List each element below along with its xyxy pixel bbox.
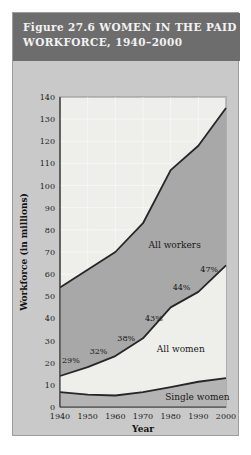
x-tick-label: 1940: [50, 412, 70, 421]
percent-annotation: 38%: [117, 334, 135, 343]
y-axis-title: Workforce (in millions): [19, 193, 29, 312]
x-tick-label: 1950: [77, 412, 97, 421]
x-axis-title: Year: [131, 424, 154, 434]
x-tick-label: 2000: [216, 412, 236, 421]
percent-annotation: 32%: [90, 347, 108, 356]
percent-annotation: 43%: [145, 314, 163, 323]
percent-annotation: 29%: [62, 356, 80, 365]
y-tick-label: 0: [50, 403, 55, 412]
series-label-all-workers: All workers: [148, 240, 202, 250]
y-tick-label: 100: [40, 182, 55, 191]
chart-y-axis-ticks: 0102030405060708090100110120130140: [40, 93, 60, 412]
percent-annotation: 44%: [173, 283, 191, 292]
figure-title-line-2: WORKFORCE, 1940–2000: [23, 35, 230, 50]
figure-frame: Figure 27.6 WOMEN IN THE PAID WORKFORCE,…: [12, 12, 239, 436]
y-tick-label: 60: [45, 270, 55, 279]
x-tick-label: 1990: [188, 412, 208, 421]
y-tick-label: 20: [45, 359, 55, 368]
y-tick-label: 40: [45, 314, 55, 323]
y-tick-label: 130: [40, 115, 55, 124]
y-tick-label: 110: [40, 159, 55, 168]
y-tick-label: 120: [40, 137, 55, 146]
y-tick-label: 70: [45, 248, 55, 257]
figure-title-band: Figure 27.6 WOMEN IN THE PAID WORKFORCE,…: [13, 13, 240, 61]
chart-area: 0102030405060708090100110120130140 19401…: [13, 61, 240, 436]
series-label-single-women: Single women: [165, 392, 230, 402]
percent-annotation: 47%: [200, 265, 218, 274]
y-tick-label: 30: [45, 337, 55, 346]
y-tick-label: 80: [45, 226, 55, 235]
y-tick-label: 90: [45, 204, 55, 213]
y-tick-label: 140: [40, 93, 55, 102]
y-tick-label: 10: [45, 381, 55, 390]
figure-title-line-1: Figure 27.6 WOMEN IN THE PAID: [23, 20, 230, 35]
x-tick-label: 1970: [133, 412, 153, 421]
x-tick-label: 1960: [105, 412, 125, 421]
series-label-all-women: All women: [156, 344, 205, 354]
chart-x-axis-ticks: 1940195019601970198019902000: [50, 407, 236, 421]
workforce-area-chart: 0102030405060708090100110120130140 19401…: [13, 61, 240, 436]
y-tick-label: 50: [45, 292, 55, 301]
x-tick-label: 1980: [160, 412, 180, 421]
